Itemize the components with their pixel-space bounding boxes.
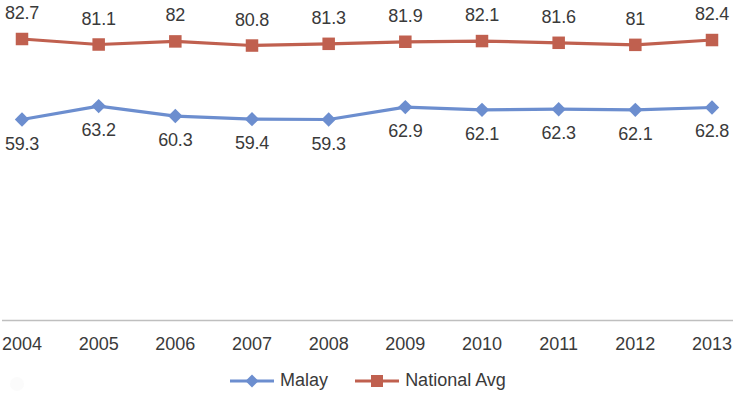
x-axis-tick-2013: 2013	[682, 334, 735, 355]
national-avg-data-label: 81.6	[529, 7, 589, 28]
x-axis-tick-2012: 2012	[605, 334, 665, 355]
national-avg-point	[629, 39, 642, 52]
malay-data-label: 62.8	[682, 121, 735, 142]
national-avg-point	[552, 37, 565, 50]
malay-data-label: 62.1	[452, 124, 512, 145]
x-axis-tick-2005: 2005	[69, 334, 129, 355]
legend-label-national-avg: National Avg	[405, 370, 506, 391]
national-avg-data-label: 82.1	[452, 5, 512, 26]
national-avg-point	[476, 35, 489, 48]
x-axis-tick-2008: 2008	[299, 334, 359, 355]
national-avg-point	[399, 36, 412, 49]
malay-point	[168, 109, 182, 123]
x-axis-tick-2006: 2006	[145, 334, 205, 355]
malay-point	[15, 112, 29, 126]
malay-data-label: 63.2	[69, 120, 129, 141]
x-axis-tick-2011: 2011	[529, 334, 589, 355]
malay-data-label: 59.3	[0, 134, 52, 155]
national-avg-data-label: 81.3	[299, 8, 359, 29]
legend-label-malay: Malay	[280, 370, 328, 391]
national-avg-point	[92, 38, 105, 51]
line-chart: 82.781.18280.881.381.982.181.68182.4 59.…	[0, 0, 735, 405]
chart-legend: Malay National Avg	[0, 370, 735, 391]
malay-data-label: 62.1	[605, 124, 665, 145]
national-avg-point	[16, 33, 29, 46]
national-avg-point	[706, 34, 719, 47]
x-axis-tick-2007: 2007	[222, 334, 282, 355]
national-avg-data-label: 82	[145, 5, 205, 26]
x-axis-tick-2010: 2010	[452, 334, 512, 355]
national-avg-point	[169, 35, 182, 48]
malay-point	[475, 103, 489, 117]
national-avg-data-label: 81.9	[375, 6, 435, 27]
national-avg-series	[16, 33, 719, 52]
x-axis-tick-2004: 2004	[0, 334, 52, 355]
national-avg-data-label: 81.1	[69, 9, 129, 30]
x-axis-tick-2009: 2009	[375, 334, 435, 355]
malay-point	[705, 100, 719, 114]
legend-item-malay[interactable]: Malay	[229, 370, 328, 391]
malay-point	[551, 102, 565, 116]
national-avg-point	[246, 39, 259, 52]
national-avg-legend-marker-icon	[354, 373, 400, 389]
national-avg-data-label: 82.7	[0, 3, 52, 24]
malay-point	[628, 103, 642, 117]
malay-point	[398, 100, 412, 114]
malay-data-label: 62.3	[529, 123, 589, 144]
malay-point	[245, 112, 259, 126]
national-avg-data-label: 82.4	[682, 4, 735, 25]
malay-data-label: 62.9	[375, 121, 435, 142]
national-avg-line	[22, 39, 712, 46]
malay-point	[91, 99, 105, 113]
malay-data-label: 60.3	[145, 130, 205, 151]
national-avg-data-label: 81	[605, 9, 665, 30]
malay-data-label: 59.4	[222, 133, 282, 154]
malay-data-label: 59.3	[299, 134, 359, 155]
malay-line	[22, 106, 712, 119]
legend-item-national-avg[interactable]: National Avg	[354, 370, 506, 391]
national-avg-data-label: 80.8	[222, 10, 282, 31]
national-avg-point	[322, 38, 335, 51]
malay-legend-marker-icon	[229, 373, 275, 389]
malay-point	[321, 112, 335, 126]
